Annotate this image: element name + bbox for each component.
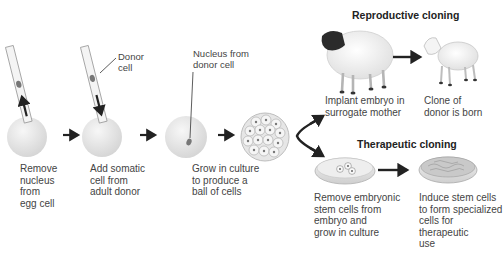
egg-cell-remove-nucleus-illustration [5, 45, 47, 157]
step-label-grow-in-culture: Grow in culture to produce a ball of cel… [192, 163, 259, 198]
step-label-add-somatic-cell: Add somatic cell from adult donor [90, 163, 145, 198]
egg-cell-add-donor-illustration [80, 45, 122, 157]
step-label-remove-stem-cells: Remove embryonic stem cells from embryo … [314, 192, 400, 238]
donor-cell-leader-line [100, 58, 116, 73]
fork-arrows [297, 116, 323, 156]
reproductive-cloning-title: Reproductive cloning [352, 9, 459, 21]
petri-dish-embryonic-stem-cells-illustration [315, 158, 375, 184]
surrogate-mother-sheep-illustration [322, 31, 393, 95]
step-label-induce-stem-cells: Induce stem cells to form specialized ce… [419, 192, 503, 250]
egg-cell-with-donor-nucleus-illustration [165, 72, 207, 158]
arrow-to-therapeutic [310, 148, 323, 156]
nucleus-from-donor-callout: Nucleus from donor cell [193, 49, 249, 70]
step-label-clone-born: Clone of donor is born [424, 95, 482, 118]
blastocyst-ball-of-cells-illustration [241, 113, 289, 161]
step-label-implant-embryo: Implant embryo in surrogate mother [325, 95, 404, 118]
donor-cell-callout: Donor cell [118, 52, 144, 73]
arrow-to-reproductive [310, 116, 323, 124]
cloned-lamb-illustration [424, 38, 478, 87]
step-label-remove-nucleus: Remove nucleus from egg cell [20, 163, 57, 209]
petri-dish-specialized-cells-illustration [419, 157, 477, 183]
therapeutic-cloning-title: Therapeutic cloning [357, 138, 457, 150]
